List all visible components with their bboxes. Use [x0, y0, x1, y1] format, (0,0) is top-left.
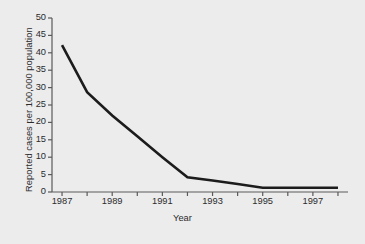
- x-tick-label: 1987: [42, 196, 82, 206]
- y-axis-title: Reported cases per 100,000 population: [24, 27, 34, 192]
- chart-canvas: [0, 0, 365, 244]
- chart-figure: 05101520253035404550 1987198919911993199…: [0, 0, 365, 244]
- x-tick-label: 1993: [193, 196, 233, 206]
- x-tick-label: 1989: [92, 196, 132, 206]
- x-axis-title: Year: [0, 213, 365, 223]
- x-tick-label: 1991: [142, 196, 182, 206]
- x-tick-label: 1995: [243, 196, 283, 206]
- y-tick-label: 50: [24, 13, 46, 22]
- x-tick-label: 1997: [293, 196, 333, 206]
- data-series-line: [62, 45, 338, 188]
